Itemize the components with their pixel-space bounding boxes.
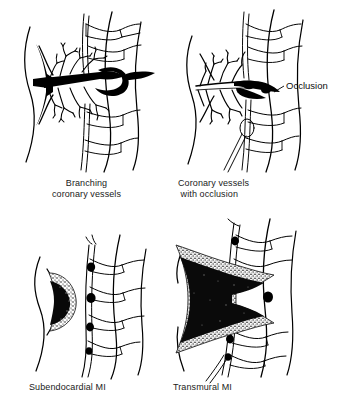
annotation-occlusion: Occlusion — [286, 80, 328, 91]
caption-line-1: Branching — [66, 178, 107, 188]
panel-coronary-vessels-with-occlusion: Occlusion Coronary vessels with occlusio… — [174, 0, 347, 205]
illustration-transmural-mi — [174, 205, 347, 385]
illustration-subendocardial-mi — [0, 205, 173, 385]
caption-line-2: with occlusion — [181, 189, 238, 199]
caption-subendocardial-mi: Subendocardial MI — [29, 382, 106, 393]
caption-line-1: Coronary vessels — [178, 178, 249, 188]
caption-branching-coronary-vessels: Branchingcoronary vessels — [0, 178, 173, 200]
panel-transmural-mi — [174, 205, 347, 410]
panel-branching-coronary-vessels: Branchingcoronary vessels — [0, 0, 173, 205]
caption-coronary-vessels-with-occlusion: Coronary vessels with occlusion — [178, 178, 249, 200]
figure-myocardial-infarction: Branchingcoronary vessels — [0, 0, 347, 410]
caption-line-2: coronary vessels — [52, 189, 121, 199]
caption-transmural-mi: Transmural MI — [173, 382, 232, 393]
panel-subendocardial-mi — [0, 205, 173, 410]
illustration-branching-coronary-vessels — [0, 0, 173, 180]
